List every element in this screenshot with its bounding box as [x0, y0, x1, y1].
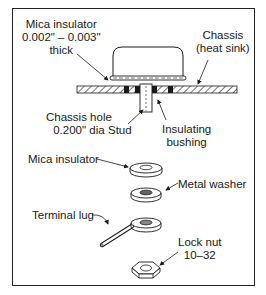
label-line: bushing [162, 136, 211, 149]
label-line: Mica insulator [28, 153, 99, 166]
label-line: Lock nut [178, 236, 221, 249]
label-line: Chassis [196, 29, 250, 42]
stud-icon [140, 84, 152, 112]
label-line: Mica insulator [22, 18, 101, 31]
label-line: Chassis hole [46, 111, 112, 124]
lock-nut-icon [132, 262, 160, 278]
label-line: (heat sink) [196, 42, 250, 55]
mica-insulator-icon [130, 163, 162, 177]
label-chassis-hole: Chassis hole 0.200" dia [46, 111, 112, 137]
label-line: Metal washer [178, 178, 246, 191]
label-chassis: Chassis (heat sink) [196, 29, 250, 55]
chassis-icon [77, 86, 237, 93]
label-terminal-lug: Terminal lug [32, 209, 94, 222]
metal-washer-icon [131, 188, 161, 202]
label-line: Insulating [162, 123, 211, 136]
label-stud: Stud [108, 124, 132, 137]
label-line: Stud [108, 124, 132, 137]
terminal-lug-icon [101, 218, 161, 246]
label-line: thick [22, 44, 101, 57]
label-metal-washer: Metal washer [178, 178, 246, 191]
label-line: 0.200" dia [46, 124, 112, 137]
label-line: 10–32 [178, 249, 221, 262]
label-lock-nut: Lock nut 10–32 [178, 236, 221, 262]
label-line: 0.002" – 0.003" [22, 31, 101, 44]
label-mica-insulator-top: Mica insulator 0.002" – 0.003" thick [22, 18, 101, 57]
label-mica-insulator-lower: Mica insulator [28, 153, 99, 166]
transistor-case-icon [110, 47, 186, 80]
label-line: Terminal lug [32, 209, 94, 222]
label-insulating-bushing: Insulating bushing [162, 123, 211, 149]
